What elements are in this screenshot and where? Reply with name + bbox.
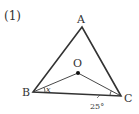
vertex-label-b: B [22, 86, 30, 99]
angle-label-25: 25° [90, 102, 104, 111]
problem-label: (1) [4, 9, 21, 23]
point-label-o: O [73, 57, 82, 70]
angle-label-x: x [46, 85, 51, 94]
point-o [76, 71, 80, 75]
vertex-label-c: C [124, 92, 132, 105]
vertex-label-a: A [76, 13, 86, 26]
geometry-diagram: (1) A B C O x 25° [0, 0, 139, 114]
